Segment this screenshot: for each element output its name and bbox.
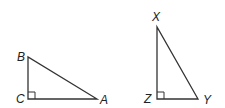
triangle-abc: B C A [16, 50, 108, 107]
vertex-label-b: B [17, 50, 25, 64]
vertex-label-x: X [151, 10, 161, 24]
vertex-label-a: A [99, 93, 108, 107]
right-angle-marker-z [157, 92, 164, 99]
vertex-label-y: Y [203, 93, 212, 107]
triangle-xyz-outline [157, 27, 198, 99]
vertex-label-z: Z [143, 92, 152, 106]
triangle-abc-outline [28, 57, 97, 99]
right-angle-marker-c [28, 92, 35, 99]
diagram-canvas: B C A X Z Y [0, 0, 225, 108]
triangle-xyz: X Z Y [143, 10, 212, 107]
vertex-label-c: C [16, 92, 25, 106]
